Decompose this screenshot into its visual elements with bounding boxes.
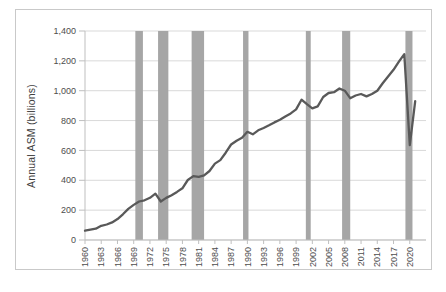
x-tick-label: 1984 — [210, 247, 220, 267]
y-tick-label: 200 — [61, 205, 76, 215]
x-tick-label: 1972 — [145, 247, 155, 267]
asm-series-line — [85, 54, 415, 231]
recession-band — [192, 31, 204, 240]
recession-band — [158, 31, 168, 240]
x-tick-label: 2005 — [324, 247, 334, 267]
x-tick-label: 2020 — [405, 247, 415, 267]
x-tick-label: 1993 — [259, 247, 269, 267]
y-tick-label: 800 — [61, 116, 76, 126]
recession-band — [135, 31, 143, 240]
x-tick-label: 1963 — [96, 247, 106, 267]
x-tick-label: 1987 — [226, 247, 236, 267]
x-tick-label: 1978 — [178, 247, 188, 267]
x-tick-label: 1960 — [80, 247, 90, 267]
x-tick-label: 2017 — [389, 247, 399, 267]
y-tick-label: 400 — [61, 175, 76, 185]
y-axis-title: Annual ASM (billions) — [25, 84, 37, 188]
y-tick-label: 1,000 — [53, 86, 76, 96]
x-tick-label: 1975 — [161, 247, 171, 267]
x-tick-label: 2011 — [356, 247, 366, 266]
x-tick-label: 1999 — [291, 247, 301, 267]
y-tick-label: 1,200 — [53, 56, 76, 66]
y-tick-label: 1,400 — [53, 26, 76, 36]
x-tick-label: 2008 — [340, 247, 350, 267]
asm-line-chart: 02004006008001,0001,2001,400196019631966… — [0, 0, 446, 292]
recession-band — [342, 31, 350, 240]
page: 02004006008001,0001,2001,400196019631966… — [0, 0, 446, 292]
y-tick-label: 600 — [61, 146, 76, 156]
x-tick-label: 1996 — [275, 247, 285, 267]
recession-band — [306, 31, 311, 240]
x-tick-label: 1981 — [194, 247, 204, 267]
x-tick-label: 1969 — [129, 247, 139, 267]
x-tick-label: 1990 — [243, 247, 253, 267]
x-tick-label: 2014 — [372, 247, 382, 267]
x-tick-label: 2002 — [308, 247, 318, 267]
y-tick-label: 0 — [71, 235, 76, 245]
x-tick-label: 1966 — [113, 247, 123, 267]
